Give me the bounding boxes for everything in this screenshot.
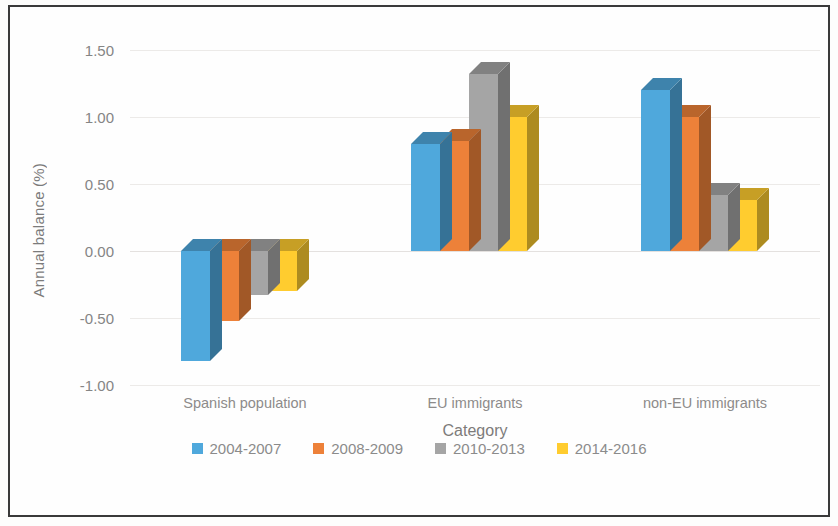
bar-side-face bbox=[670, 78, 682, 251]
bar-side-face bbox=[527, 105, 539, 251]
bar-side-face bbox=[699, 105, 711, 251]
legend-item[interactable]: 2010-2013 bbox=[435, 440, 525, 457]
gridline bbox=[130, 385, 820, 386]
y-axis-tick-label: -1.00 bbox=[80, 377, 114, 394]
x-axis-tick-label: EU immigrants bbox=[365, 395, 585, 411]
legend-label: 2010-2013 bbox=[453, 440, 525, 457]
x-axis-tick-label: non-EU immigrants bbox=[595, 395, 815, 411]
chart-figure: Annual balance (%) 1.501.000.500.00-0.50… bbox=[0, 0, 838, 526]
bar-group bbox=[360, 50, 590, 385]
bar-front-face bbox=[411, 144, 440, 251]
legend-swatch bbox=[435, 443, 446, 454]
legend-item[interactable]: 2008-2009 bbox=[313, 440, 403, 457]
legend-label: 2004-2007 bbox=[210, 440, 282, 457]
y-axis-tick-label: 0.50 bbox=[85, 176, 114, 193]
bar-front-face bbox=[181, 251, 210, 361]
y-axis-tick-label: -0.50 bbox=[80, 310, 114, 327]
bar[interactable] bbox=[641, 90, 670, 251]
bar-3d-body bbox=[641, 90, 670, 251]
y-axis-tick-label: 1.00 bbox=[85, 109, 114, 126]
y-axis-tick-label: 0.00 bbox=[85, 243, 114, 260]
x-axis-tick-label: Spanish population bbox=[135, 395, 355, 411]
bar[interactable] bbox=[411, 144, 440, 251]
plot-area: 1.501.000.500.00-0.50-1.00 Spanish popul… bbox=[130, 50, 820, 385]
legend-item[interactable]: 2004-2007 bbox=[192, 440, 282, 457]
x-axis-title: Category bbox=[130, 422, 820, 440]
bar-side-face bbox=[440, 132, 452, 251]
bar-side-face bbox=[498, 62, 510, 251]
bar-side-face bbox=[210, 239, 222, 361]
bar-front-face bbox=[641, 90, 670, 251]
bar-side-face bbox=[239, 239, 251, 321]
bar-group bbox=[130, 50, 360, 385]
y-axis-tick-label: 1.50 bbox=[85, 42, 114, 59]
bar-group bbox=[590, 50, 820, 385]
bar-3d-body bbox=[411, 144, 440, 251]
legend-label: 2008-2009 bbox=[331, 440, 403, 457]
bar[interactable] bbox=[181, 251, 210, 361]
legend-swatch bbox=[313, 443, 324, 454]
legend-label: 2014-2016 bbox=[575, 440, 647, 457]
legend-swatch bbox=[192, 443, 203, 454]
chart-legend: 2004-20072008-20092010-20132014-2016 bbox=[0, 440, 838, 457]
bar-3d-body bbox=[181, 251, 210, 361]
legend-item[interactable]: 2014-2016 bbox=[557, 440, 647, 457]
bar-side-face bbox=[469, 129, 481, 251]
y-axis-title: Annual balance (%) bbox=[26, 130, 50, 330]
legend-swatch bbox=[557, 443, 568, 454]
